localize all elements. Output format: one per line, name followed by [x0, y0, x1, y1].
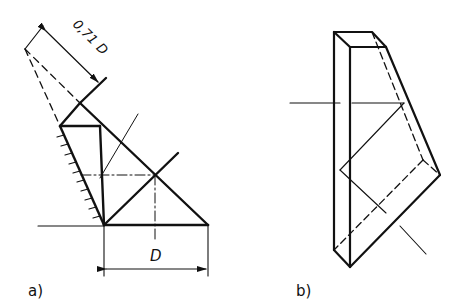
dimension-label-diagonal: 0,71 D — [70, 17, 111, 58]
ray-line — [100, 114, 138, 178]
figure-a-label: a) — [28, 282, 43, 300]
figure-b-label: b) — [296, 282, 311, 300]
prism-edge — [386, 47, 440, 175]
prism-edge — [334, 32, 350, 47]
ray-line — [340, 170, 386, 213]
hidden-edge — [372, 32, 423, 160]
ray-line — [400, 226, 426, 254]
figure-b — [290, 32, 440, 267]
diagonal-edge — [104, 153, 178, 225]
prism-edge — [80, 78, 106, 103]
figure-a — [25, 26, 208, 276]
hypotenuse-face — [80, 103, 208, 225]
prism-edge — [334, 250, 350, 267]
extension-line — [25, 26, 43, 49]
hatching — [57, 135, 100, 218]
prism-diagram: 0,71 D D a) b) — [0, 0, 461, 305]
dashed-line — [25, 49, 60, 126]
dimension-label-width: D — [150, 247, 162, 265]
prism-edge — [60, 103, 80, 126]
dashed-line — [25, 49, 80, 103]
